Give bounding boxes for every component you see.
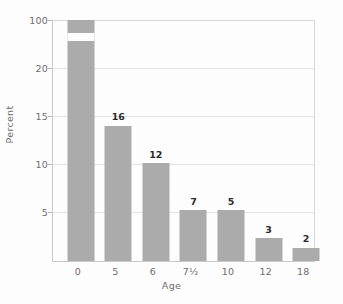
bar-age-10[interactable] (218, 210, 245, 261)
bar-age-0[interactable] (67, 20, 94, 261)
y-tick-label-5: 5 (8, 207, 48, 218)
y-tick-label-15: 15 (8, 111, 48, 122)
bar-value-label: 7 (190, 196, 197, 207)
bar-slot-2: 12 (137, 21, 175, 261)
bar-value-label: 5 (228, 196, 235, 207)
bar-slot-6: 2 (287, 21, 325, 261)
y-tick-label-20: 20 (8, 63, 48, 74)
bar-chart-figure: Percent 100 20 15 10 5 16 12 (0, 0, 343, 304)
y-tick-label-10: 10 (8, 159, 48, 170)
bar-slot-3: 7 (175, 21, 213, 261)
x-tick-label-18: 18 (273, 266, 333, 277)
bar-age-18[interactable] (293, 248, 320, 261)
bar-age-6[interactable] (142, 163, 169, 261)
bar-value-label: 2 (303, 233, 310, 244)
bar-slot-5: 3 (250, 21, 288, 261)
axis-break-gap (67, 33, 94, 41)
bar-slot-4: 5 (212, 21, 250, 261)
bar-value-label: 16 (112, 111, 125, 122)
plot-area: 16 12 7 5 3 2 (52, 20, 315, 262)
bar-value-label: 12 (149, 149, 162, 160)
bar-age-12[interactable] (255, 238, 282, 261)
y-tick-label-100: 100 (8, 15, 48, 26)
bar-age-5[interactable] (105, 126, 132, 261)
bar-age-7-5[interactable] (180, 210, 207, 261)
bar-value-label: 3 (265, 224, 272, 235)
bar-slot-0 (62, 21, 100, 261)
x-axis-label: Age (0, 280, 343, 291)
bar-slot-1: 16 (100, 21, 138, 261)
